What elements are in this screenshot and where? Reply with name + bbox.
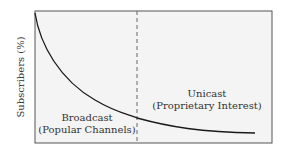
y-axis-label: Subscribers (%) xyxy=(15,36,26,117)
unicast-title: Unicast xyxy=(148,88,266,100)
unicast-subtitle: (Proprietary Interest) xyxy=(148,100,266,112)
broadcast-subtitle: (Popular Channels) xyxy=(37,124,137,136)
unicast-label: Unicast (Proprietary Interest) xyxy=(148,88,266,112)
broadcast-title: Broadcast xyxy=(37,112,137,124)
broadcast-label: Broadcast (Popular Channels) xyxy=(37,112,137,136)
